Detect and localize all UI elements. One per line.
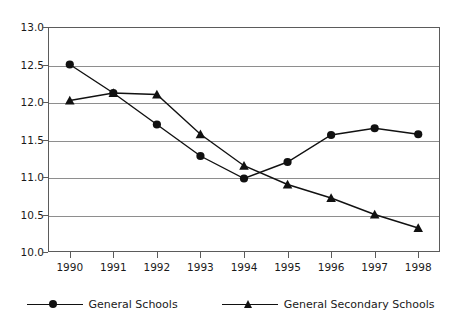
- line-chart: 13.012.512.011.511.010.510.0 General Sch…: [0, 0, 461, 320]
- y-tick-label: 10.5: [4, 209, 44, 221]
- x-tick-label: 1996: [318, 261, 345, 273]
- x-tick-mark: [113, 252, 114, 258]
- gridline: [49, 178, 439, 179]
- y-tick-mark: [42, 215, 48, 216]
- y-tick-mark: [42, 102, 48, 103]
- y-tick-label: 13.0: [4, 21, 44, 33]
- y-tick-label: 12.5: [4, 59, 44, 71]
- x-tick-mark: [157, 252, 158, 258]
- y-tick-mark: [42, 65, 48, 66]
- x-tick-label: 1992: [144, 261, 171, 273]
- legend-label: General Secondary Schools: [284, 298, 435, 311]
- legend-label: General Schools: [89, 298, 178, 311]
- chart-legend: General Schools General Secondary School…: [0, 292, 461, 316]
- y-tick-mark: [42, 177, 48, 178]
- x-tick-mark: [70, 252, 71, 258]
- y-tick-label: 10.0: [4, 246, 44, 258]
- x-tick-mark: [331, 252, 332, 258]
- y-axis: 13.012.512.011.511.010.510.0: [0, 0, 44, 320]
- x-tick-mark: [244, 252, 245, 258]
- legend-marker-triangle-icon: [222, 298, 278, 310]
- y-tick-mark: [42, 252, 48, 253]
- gridline: [49, 216, 439, 217]
- x-tick-mark: [288, 252, 289, 258]
- x-tick-label: 1990: [56, 261, 83, 273]
- x-tick-label: 1994: [231, 261, 258, 273]
- x-tick-label: 1998: [405, 261, 432, 273]
- gridline: [49, 103, 439, 104]
- x-tick-mark: [200, 252, 201, 258]
- gridline: [49, 141, 439, 142]
- legend-item-general-secondary-schools: General Secondary Schools: [222, 298, 435, 311]
- x-tick-label: 1997: [361, 261, 388, 273]
- legend-item-general-schools: General Schools: [27, 298, 178, 311]
- x-tick-label: 1995: [274, 261, 301, 273]
- y-tick-mark: [42, 140, 48, 141]
- chart-title: [0, 0, 461, 6]
- legend-marker-circle-icon: [27, 298, 83, 310]
- y-tick-label: 12.0: [4, 96, 44, 108]
- y-tick-label: 11.5: [4, 134, 44, 146]
- plot-area: [48, 27, 440, 252]
- x-tick-label: 1993: [187, 261, 214, 273]
- x-tick-mark: [418, 252, 419, 258]
- y-tick-label: 11.0: [4, 171, 44, 183]
- y-tick-mark: [42, 27, 48, 28]
- x-tick-mark: [375, 252, 376, 258]
- x-tick-label: 1991: [100, 261, 127, 273]
- gridline: [49, 66, 439, 67]
